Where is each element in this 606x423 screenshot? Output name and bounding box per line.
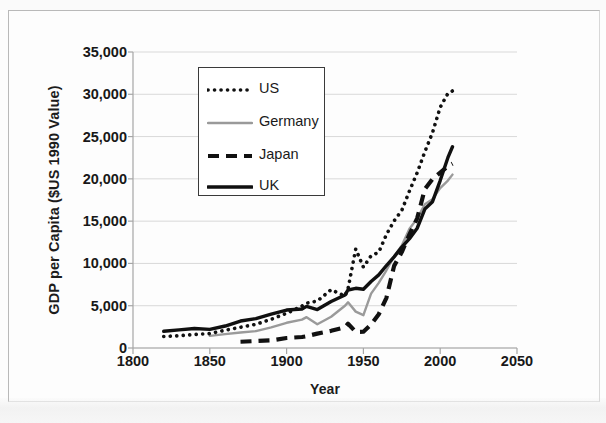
legend-label: UK [259,177,279,193]
thick-black-line-swatch [207,179,253,191]
legend-item-us: US [207,76,279,100]
legend-label: Germany [259,113,319,129]
x-tick-label: 2050 [501,353,533,369]
dashed-line-swatch [207,148,253,160]
y-tick-label: 35,000 [61,44,127,60]
dotted-line-swatch [207,82,253,94]
legend-label: US [259,80,279,96]
legend-item-germany: Germany [207,109,319,133]
legend-label: Japan [259,146,299,162]
y-tick-label: 5,000 [61,298,127,314]
y-tick-label: 10,000 [61,255,127,271]
chart-legend: USGermanyJapanUK [198,67,325,196]
x-axis-title: Year [133,381,517,397]
x-tick-label: 2000 [424,353,456,369]
legend-item-uk: UK [207,173,279,197]
x-tick-label: 1800 [117,353,149,369]
y-tick-label: 20,000 [61,171,127,187]
series-line-germany [210,175,453,336]
x-tick-label: 1900 [270,353,302,369]
y-tick-label: 30,000 [61,86,127,102]
y-axis-title: GDP per Capita ($US 1990 Value) [46,50,62,350]
y-tick-label: 15,000 [61,213,127,229]
legend-item-japan: Japan [207,142,299,166]
thin-gray-line-swatch [207,115,253,127]
y-tick-label: 25,000 [61,129,127,145]
x-tick-label: 1950 [347,353,379,369]
x-tick-label: 1850 [194,353,226,369]
